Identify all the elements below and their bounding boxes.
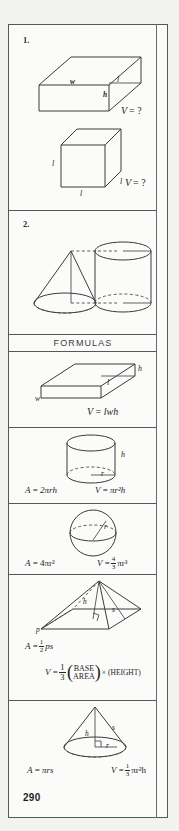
exercise-1-panel: 1. w l h V= ? l l l V= ? bbox=[9, 25, 157, 211]
formula-box-diagram bbox=[39, 358, 149, 406]
cube-label-l-left: l bbox=[52, 159, 54, 168]
formula-sphere-panel: r A = 4πr² V =43πr³ bbox=[9, 504, 157, 575]
pyramid-area-fraction: 12 bbox=[39, 639, 45, 655]
formula-cylinder-volume: V = πr²h bbox=[95, 485, 125, 495]
formula-cone-diagram bbox=[61, 705, 131, 761]
formula-box-panel: h l w V = lwh bbox=[9, 352, 157, 428]
formula-cylinder-label-r: r bbox=[101, 469, 104, 478]
formula-cylinder-area: A = 2πrh bbox=[25, 485, 57, 495]
cube-label-l-bottom: l bbox=[80, 189, 82, 198]
formula-cylinder-panel: h r A = 2πrh V = πr²h bbox=[9, 428, 157, 504]
cube-label-l-right: l bbox=[120, 177, 122, 186]
formula-pyramid-label-p: p bbox=[36, 625, 40, 634]
formulas-header-label: FORMULAS bbox=[9, 335, 157, 348]
box-label-w: w bbox=[70, 77, 75, 86]
formula-cone-label-r: r bbox=[106, 741, 109, 750]
formula-cone-area: A = πrs bbox=[27, 765, 54, 775]
pyramid-base-area-group: BASEAREA bbox=[73, 665, 95, 681]
formula-cylinder-label-h: h bbox=[121, 450, 125, 459]
formula-box-label-w: w bbox=[35, 394, 40, 403]
pyramid-volume-fraction: 13 bbox=[59, 663, 66, 682]
sphere-volume-fraction: 43 bbox=[111, 556, 117, 572]
exercise-2-panel: 2. bbox=[9, 211, 157, 335]
formula-pyramid-label-s: s bbox=[112, 605, 115, 614]
formula-pyramid-diagram bbox=[37, 579, 149, 635]
box-volume-question: V= ? bbox=[121, 105, 142, 116]
exercise-1-number: 1. bbox=[23, 35, 29, 45]
formula-pyramid-area: A =12ps bbox=[25, 639, 53, 655]
cone-volume-fraction: 13 bbox=[125, 763, 131, 779]
formula-box-label-h: h bbox=[138, 364, 142, 373]
formula-sphere-area: A = 4πr² bbox=[25, 558, 55, 568]
rectangular-box-diagram bbox=[37, 45, 149, 113]
formula-cylinder-diagram bbox=[63, 433, 125, 485]
formula-cone-label-h: h bbox=[85, 729, 89, 738]
formula-cone-volume: V =13πr²h bbox=[111, 763, 146, 779]
formula-box-label-l: l bbox=[107, 378, 109, 387]
formula-pyramid-volume: V =13(BASEAREA)× (HEIGHT) bbox=[45, 663, 141, 682]
formula-box-volume: V = lwh bbox=[87, 406, 118, 417]
cube-volume-question: V= ? bbox=[125, 177, 146, 188]
formula-sphere-diagram bbox=[63, 508, 123, 558]
cone-and-cylinder-diagram bbox=[31, 235, 155, 321]
formula-sphere-label-r: r bbox=[104, 522, 107, 531]
formula-cone-label-s: s bbox=[112, 723, 115, 732]
textbook-page: 1. w l h V= ? l l l V= ? 2. bbox=[8, 24, 168, 818]
exercise-2-number: 2. bbox=[23, 219, 29, 229]
formula-pyramid-panel: h s p A =12ps V =13(BASEAREA)× (HEIGHT) bbox=[9, 575, 157, 701]
page-number: 290 bbox=[23, 792, 41, 803]
pyramid-paren-close: ) bbox=[95, 666, 101, 679]
box-label-h: h bbox=[103, 90, 107, 99]
box-label-l: l bbox=[117, 75, 119, 84]
formula-pyramid-label-h: h bbox=[83, 597, 87, 606]
formulas-header: FORMULAS bbox=[9, 335, 157, 352]
formula-sphere-volume: V =43πr³ bbox=[97, 556, 128, 572]
